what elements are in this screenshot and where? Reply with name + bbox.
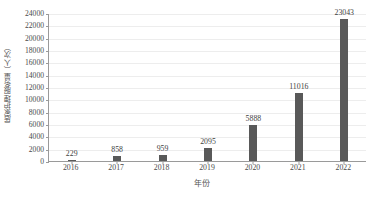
x-axis-title-label: 年份: [164, 180, 210, 188]
bar-slot: 11016: [276, 14, 321, 161]
x-axis-tick-labels: 2016201720182019202020212022: [48, 164, 366, 178]
x-tick-label: 2018: [154, 164, 170, 172]
y-tick-mark: [46, 137, 49, 138]
bar[interactable]: [204, 148, 212, 161]
y-tick-mark: [46, 76, 49, 77]
bar-value-label: 11016: [289, 83, 308, 91]
y-tick-label: 14000: [25, 72, 44, 80]
x-tick-label: 2016: [63, 164, 79, 172]
bar-slot: 229: [49, 14, 94, 161]
y-tick-label: 12000: [25, 84, 44, 92]
y-axis-title-label: 居家护理服务量（人次）: [5, 44, 12, 123]
bar-slot: 23043: [322, 14, 367, 161]
bar-value-label: 858: [111, 146, 123, 154]
x-tick-label: 2020: [245, 164, 261, 172]
x-tick-label: 2021: [290, 164, 306, 172]
bar-slot: 858: [94, 14, 139, 161]
y-tick-label: 16000: [25, 60, 44, 68]
bar-slot: 5888: [231, 14, 276, 161]
bar-value-label: 229: [66, 150, 78, 158]
y-tick-label: 6000: [29, 121, 44, 129]
y-tick-label: 8000: [29, 109, 44, 117]
y-tick-label: 20000: [25, 35, 44, 43]
y-tick-mark: [46, 150, 49, 151]
bar-slot: 2095: [185, 14, 230, 161]
y-tick-mark: [46, 51, 49, 52]
x-tick-label: 2017: [108, 164, 124, 172]
y-tick-mark: [46, 39, 49, 40]
bars-layer: 229858959209558881101623043: [49, 14, 366, 161]
y-tick-mark: [46, 26, 49, 27]
y-tick-label: 2000: [29, 146, 44, 154]
y-tick-label: 4000: [29, 134, 44, 142]
y-tick-label: 10000: [25, 97, 44, 105]
y-axis-tick-labels: 0200040006000800010000120001400016000180…: [16, 14, 46, 162]
bar[interactable]: [340, 19, 348, 161]
bar-value-label: 959: [157, 145, 169, 153]
bar[interactable]: [295, 93, 303, 161]
y-tick-mark: [46, 113, 49, 114]
y-tick-mark: [46, 63, 49, 64]
y-tick-mark: [46, 88, 49, 89]
y-tick-mark: [46, 100, 49, 101]
y-tick-label: 18000: [25, 47, 44, 55]
y-tick-mark: [46, 125, 49, 126]
y-tick-label: 0: [40, 158, 44, 166]
y-tick-mark: [46, 162, 49, 163]
x-axis-title: 年份: [0, 180, 373, 188]
bar-value-label: 23043: [335, 9, 355, 17]
bar-value-label: 5888: [246, 115, 262, 123]
x-tick-label: 2022: [335, 164, 351, 172]
y-tick-label: 22000: [25, 23, 44, 31]
bar-value-label: 2095: [200, 138, 216, 146]
y-tick-mark: [46, 14, 49, 15]
bar[interactable]: [249, 125, 257, 161]
x-tick-label: 2019: [199, 164, 215, 172]
bar-chart: 居家护理服务量（人次） 0200040006000800010000120001…: [0, 0, 373, 202]
y-tick-label: 24000: [25, 10, 44, 18]
bar-slot: 959: [140, 14, 185, 161]
plot-area: 229858959209558881101623043: [48, 14, 366, 162]
